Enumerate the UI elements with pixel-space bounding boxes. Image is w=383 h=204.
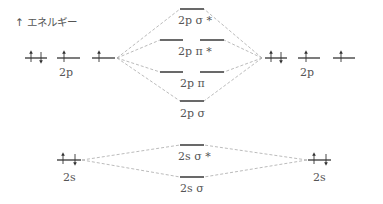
left-2s-label: 2s (63, 172, 76, 183)
mo-label-2p-pi: 2p π (180, 78, 205, 89)
mo-label-2s-sigma: 2s σ (180, 183, 204, 194)
mo-label-2p-pi-star: 2p π * (178, 46, 212, 57)
right-2p-label: 2p (300, 67, 314, 78)
right-2p-electrons (271, 52, 341, 62)
mo-label-2p-sigma: 2p σ (180, 108, 205, 119)
mo-label-2s-sigma-star: 2s σ * (178, 151, 211, 162)
right-2s-label: 2s (313, 172, 326, 183)
left-2p-label: 2p (59, 67, 73, 78)
mo-label-2p-sigma-star: 2p σ * (178, 15, 212, 26)
left-2p-electrons (31, 52, 99, 62)
